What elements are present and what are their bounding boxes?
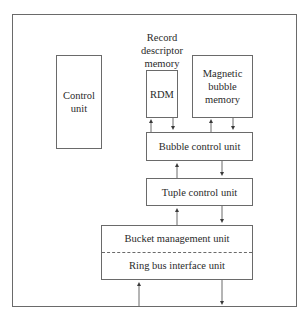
connector-arrows [0, 0, 306, 314]
